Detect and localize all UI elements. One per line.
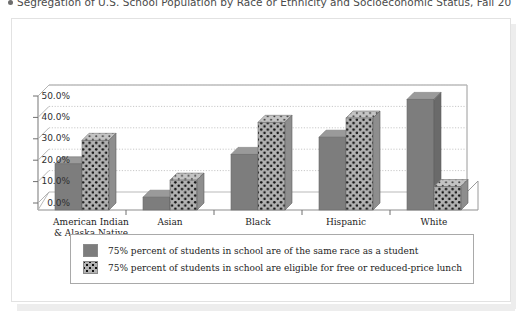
x-tick-white: White (394, 217, 474, 228)
x-tick-black: Black (218, 217, 298, 228)
x-tick-black-line1: Black (218, 217, 298, 228)
x-tick-hispanic-line1: Hispanic (306, 217, 386, 228)
x-tick-white-line1: White (394, 217, 474, 228)
chart-legend: 75% percent of students in school are of… (70, 234, 474, 284)
legend-label-same-race: 75% percent of students in school are of… (108, 245, 418, 257)
bar-chart-plot: 50.0% 40.0% 30.0% 20.0% 10.0% 0.0% Ameri… (12, 19, 512, 303)
y-tick-label-10: 10.0% (24, 177, 70, 186)
x-tick-hispanic: Hispanic (306, 217, 386, 228)
x-tick-asian: Asian (130, 217, 210, 228)
legend-item-same-race: 75% percent of students in school are of… (71, 242, 473, 259)
x-tick-asian-line1: Asian (130, 217, 210, 228)
x-axis-labels: American Indian & Alaska Native Asian Bl… (12, 194, 512, 234)
y-tick-label-30: 30.0% (24, 134, 70, 143)
figure-title-row: Segregation of U.S. School Population by… (8, 0, 532, 9)
legend-item-free-lunch: 75% percent of students in school are el… (71, 259, 473, 276)
solid-gray-swatch-icon (83, 244, 98, 257)
bullet-icon (8, 0, 13, 5)
y-axis-labels: 50.0% 40.0% 30.0% 20.0% 10.0% 0.0% (24, 19, 70, 303)
figure-title-text: Segregation of U.S. School Population by… (17, 0, 511, 8)
y-tick-label-40: 40.0% (24, 113, 70, 122)
figure-panel: 50.0% 40.0% 30.0% 20.0% 10.0% 0.0% Ameri… (11, 18, 511, 302)
y-tick-label-20: 20.0% (24, 156, 70, 165)
legend-label-free-lunch: 75% percent of students in school are el… (108, 262, 462, 274)
panel-drop-shadow-bottom (17, 304, 515, 311)
y-tick-label-50: 50.0% (24, 92, 70, 101)
dotted-gray-swatch-icon (83, 261, 98, 274)
